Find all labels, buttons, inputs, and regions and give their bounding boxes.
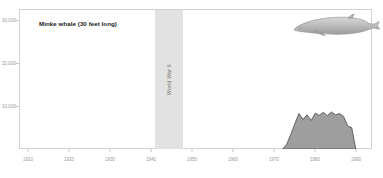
x-axis-tick-mark <box>356 149 357 152</box>
x-axis-tick-mark <box>69 149 70 152</box>
x-axis-tick-label: 1940 <box>146 157 156 162</box>
x-axis-tick-label: 1950 <box>187 157 197 162</box>
x-axis-tick-mark <box>315 149 316 152</box>
x-axis-tick-mark <box>233 149 234 152</box>
whale-body <box>294 17 379 34</box>
x-axis: 1910 1920 1930 1940 1950 1960 1970 1980 … <box>0 149 383 178</box>
x-axis-tick-mark <box>192 149 193 152</box>
x-axis-tick-label: 1930 <box>105 157 115 162</box>
x-axis-tick-mark <box>28 149 29 152</box>
x-axis-tick-label: 1980 <box>310 157 320 162</box>
y-axis-tick-label: 10,000 <box>2 104 16 109</box>
y-axis-tick-label: 30,000 <box>2 18 16 23</box>
x-axis-tick-label: 1910 <box>23 157 33 162</box>
y-axis-tick-mark <box>16 106 19 107</box>
x-axis-tick-label: 1990 <box>351 157 361 162</box>
x-axis-tick-label: 1960 <box>228 157 238 162</box>
x-axis-tick-mark <box>110 149 111 152</box>
y-axis-tick-label: 20,000 <box>2 61 16 66</box>
x-axis-tick-label: 1920 <box>64 157 74 162</box>
y-axis-tick-mark <box>16 63 19 64</box>
minke-whale-illustration <box>288 10 380 44</box>
x-axis-tick-mark <box>151 149 152 152</box>
x-axis-tick-label: 1970 <box>269 157 279 162</box>
x-axis-tick-mark <box>274 149 275 152</box>
whale-catch-chart: World War II Minke whale (30 feet long) … <box>0 0 383 178</box>
area-series-shape <box>283 112 356 149</box>
y-axis-tick-mark <box>16 20 19 21</box>
